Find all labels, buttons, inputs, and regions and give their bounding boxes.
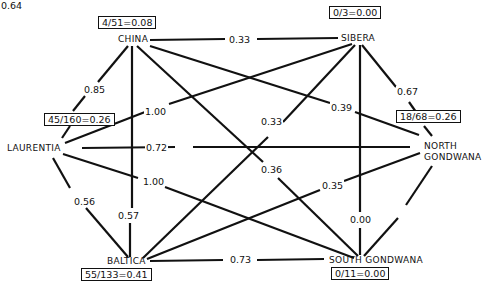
edge-sibera-north-gondwana	[424, 126, 432, 136]
stat-box-sibera: 0/3=0.00	[329, 6, 381, 19]
stat-box-laurentia: 45/160=0.26	[44, 113, 115, 126]
edge-china-north-gondwana	[150, 46, 330, 103]
edge-label-laurentia-north-gondwana: 0.72	[145, 142, 168, 153]
edge-laurentia-south-gondwana	[63, 154, 138, 178]
node-sibera: SIBERA	[341, 33, 375, 43]
edge-label-china-south-gondwana: 0.36	[260, 164, 283, 175]
edge-laurentia-south-gondwana	[165, 187, 354, 258]
edge-label-baltica-south-gondwana: 0.73	[229, 254, 252, 265]
edge-north-gondwana-south-gondwana	[406, 166, 432, 205]
edge-label-baltica-north-gondwana: 0.35	[321, 180, 344, 191]
edge-label-sibera-laurentia: 1.00	[144, 106, 167, 117]
edge-china-laurentia	[62, 126, 70, 138]
edge-label-china-sibera: 0.33	[228, 34, 251, 45]
edge-label-china-north-gondwana: 0.39	[330, 102, 353, 113]
stat-box-china: 4/51=0.08	[98, 16, 156, 29]
node-china: CHINA	[118, 34, 148, 44]
edge-china-sibera	[150, 39, 225, 40]
edge-sibera-north-gondwana	[362, 45, 396, 87]
edge-label-china-baltica: 0.57	[117, 210, 140, 221]
edge-label-sibera-north-gondwana: 0.67	[396, 86, 419, 97]
node-south-gondwana: SOUTH GONDWANA	[329, 255, 423, 265]
stat-box-north-gondwana: 18/68=0.26	[396, 110, 461, 123]
edge-baltica-north-gondwana	[147, 190, 320, 259]
edge-label-laurentia-south-gondwana: 1.00	[142, 176, 165, 187]
edge-china-sibera	[257, 38, 338, 39]
edge-sibera-baltica	[143, 137, 268, 258]
node-north-gondwana-line1: NORTH	[424, 141, 457, 151]
edge-baltica-south-gondwana	[257, 259, 324, 260]
node-north-gondwana-line2: GONDWANA	[424, 152, 482, 162]
edge-baltica-north-gondwana	[344, 153, 420, 181]
edge-sibera-laurentia	[169, 44, 352, 104]
node-laurentia: LAURENTIA	[7, 143, 61, 153]
edge-label-laurentia-baltica: 0.56	[73, 196, 96, 207]
stat-box-south-gondwana: 0/11=0.00	[331, 267, 389, 280]
edge-china-laurentia	[98, 46, 128, 82]
edge-label-sibera-baltica: 0.33	[260, 116, 283, 127]
edge-label-north-gondwana-south-gondwana: 0.64	[0, 0, 23, 11]
edge-china-laurentia	[73, 96, 85, 111]
node-baltica: BALTICA	[107, 256, 146, 266]
edge-baltica-south-gondwana	[150, 260, 223, 261]
edge-label-sibera-south-gondwana: 0.00	[349, 214, 372, 225]
stat-box-baltica: 55/133=0.41	[81, 268, 152, 281]
edge-laurentia-baltica	[53, 158, 70, 188]
edge-label-china-laurentia: 0.85	[83, 84, 106, 95]
